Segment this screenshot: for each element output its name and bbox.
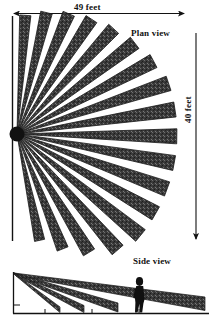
- right-dimension-label: 40 feet: [183, 96, 193, 123]
- fan-hub: [10, 127, 25, 142]
- side-view-title: Side view: [133, 256, 171, 266]
- plan-view-title: Plan view: [131, 28, 170, 38]
- top-dimension-label: 49 feet: [74, 2, 101, 12]
- technical-diagram: [0, 0, 214, 321]
